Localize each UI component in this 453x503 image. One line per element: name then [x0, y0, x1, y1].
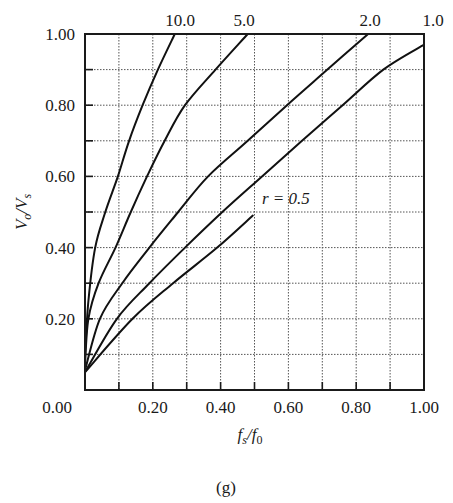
figure-caption: (g) — [216, 478, 236, 497]
x-axis-label: fs/f0 — [238, 425, 263, 447]
r-annotation-label: r = 0.5 — [262, 189, 310, 208]
x-tick-label: 0.00 — [42, 398, 72, 417]
chart-canvas: 0.000.200.400.600.801.00 0.200.400.600.8… — [0, 0, 453, 503]
y-tick-labels: 0.200.400.600.801.00 — [45, 25, 75, 329]
curve-labels-top: 10.05.02.01.0 — [165, 11, 444, 30]
grid — [85, 34, 424, 390]
y-axis-label: Vo/Vs — [12, 194, 34, 231]
x-tick-labels: 0.000.200.400.600.801.00 — [42, 398, 439, 417]
x-tick-label: 0.20 — [138, 398, 168, 417]
y-tick-label: 0.20 — [45, 310, 75, 329]
y-tick-label: 0.60 — [45, 167, 75, 186]
chart: 0.000.200.400.600.801.00 0.200.400.600.8… — [0, 0, 453, 503]
y-tick-label: 1.00 — [45, 25, 75, 44]
y-tick-label: 0.80 — [45, 96, 75, 115]
curve-10.0 — [85, 34, 175, 354]
curve-label-5.0: 5.0 — [233, 11, 254, 30]
curve-2.0 — [85, 34, 368, 370]
x-tick-label: 0.40 — [206, 398, 236, 417]
x-tick-label: 1.00 — [409, 398, 439, 417]
curve-0.5 — [85, 216, 253, 373]
y-tick-label: 0.40 — [45, 239, 75, 258]
curve-label-10.0: 10.0 — [165, 11, 195, 30]
curve-label-2.0: 2.0 — [359, 11, 380, 30]
x-tick-label: 0.80 — [341, 398, 371, 417]
x-tick-label: 0.60 — [274, 398, 304, 417]
curve-label-1.0: 1.0 — [422, 11, 443, 30]
